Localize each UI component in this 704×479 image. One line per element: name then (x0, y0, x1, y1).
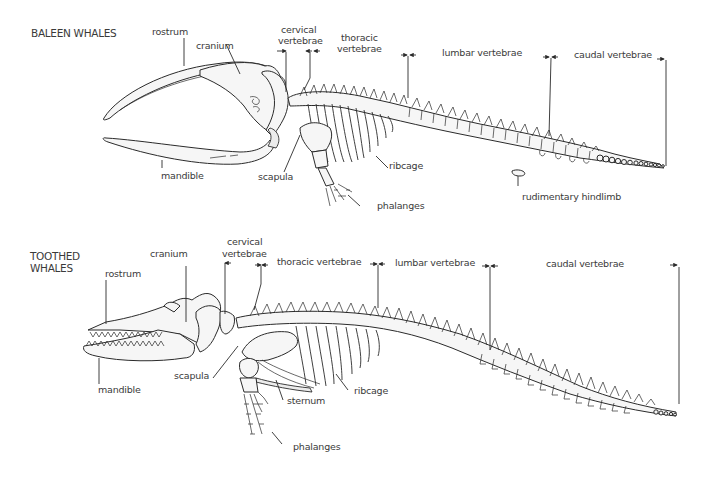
toothed-label-thoracic: thoracic vertebrae (277, 256, 362, 267)
toothed-label-phalanges: phalanges (293, 441, 341, 452)
toothed-label-lumbar: lumbar vertebrae (395, 257, 475, 268)
toothed-label-mandible: mandible (98, 384, 141, 395)
baleen-label-thoracic-1: thoracic (341, 32, 378, 43)
toothed-label-sternum: sternum (287, 395, 325, 406)
toothed-whale-skeleton: TOOTHED WHALES (29, 236, 679, 452)
baleen-rudimentary-hindlimb (512, 170, 525, 176)
toothed-flipper-phalanges (240, 378, 268, 434)
toothed-whales-title-line2: WHALES (30, 262, 73, 274)
baleen-label-lumbar: lumbar vertebrae (442, 47, 522, 58)
baleen-label-cranium: cranium (196, 40, 234, 51)
baleen-label-cervical-1: cervical (281, 24, 316, 35)
toothed-label-ribcage: ribcage (354, 385, 388, 396)
toothed-label-cervical-1: cervical (227, 236, 262, 247)
baleen-flipper-phalanges (318, 168, 352, 206)
baleen-mandible (103, 138, 274, 164)
toothed-label-rostrum: rostrum (105, 268, 141, 279)
toothed-label-cervical-2: vertebrae (222, 248, 267, 259)
baleen-label-caudal: caudal vertebrae (574, 49, 652, 60)
baleen-label-mandible: mandible (161, 170, 204, 181)
toothed-whales-title-line1: TOOTHED (29, 250, 80, 262)
toothed-ribcage (296, 326, 379, 386)
toothed-scapula (242, 332, 298, 361)
baleen-scapula (300, 123, 332, 152)
baleen-label-thoracic-2: vertebrae (337, 43, 382, 54)
baleen-vertebral-column (288, 84, 664, 168)
baleen-label-hindlimb: rudimentary hindlimb (522, 191, 621, 202)
baleen-label-phalanges: phalanges (377, 200, 425, 211)
toothed-label-scapula: scapula (174, 370, 209, 381)
baleen-label-cervical-2: vertebrae (278, 35, 323, 46)
baleen-whales-title: BALEEN WHALES (31, 27, 117, 39)
baleen-whale-skeleton: BALEEN WHALES (31, 24, 666, 211)
baleen-label-scapula: scapula (258, 171, 293, 182)
toothed-label-caudal: caudal vertebrae (546, 258, 624, 269)
toothed-label-cranium: cranium (150, 248, 188, 259)
baleen-label-ribcage: ribcage (389, 160, 423, 171)
baleen-caudal-beads (597, 155, 664, 167)
baleen-label-rostrum: rostrum (152, 26, 188, 37)
whale-skeleton-diagram: BALEEN WHALES (0, 0, 704, 479)
